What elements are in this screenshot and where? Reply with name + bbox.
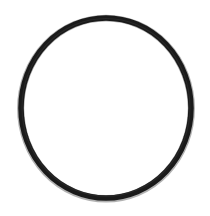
o-ring-bore [24,21,187,194]
product-image-canvas: O-Ring [0,0,210,216]
o-ring-illustration [0,0,210,216]
